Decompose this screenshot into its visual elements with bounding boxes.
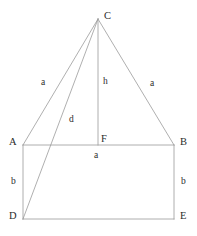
segment-label-height-h: h xyxy=(103,77,108,87)
vertex-label-d: D xyxy=(9,211,17,222)
edge-ca xyxy=(23,19,98,145)
vertex-label-e: E xyxy=(180,211,186,222)
geometry-diagram: CABFDEaahdabb xyxy=(0,0,197,236)
edge-cb xyxy=(98,19,174,145)
vertex-label-a: A xyxy=(9,137,17,148)
segment-label-side-a-right: a xyxy=(150,79,154,89)
edge-cd xyxy=(23,19,98,219)
segment-label-base-a-bottom: a xyxy=(94,151,98,161)
vertex-label-f: F xyxy=(101,134,107,145)
vertex-label-c: C xyxy=(104,11,111,22)
segment-label-side-b-right: b xyxy=(181,177,186,187)
edge-group xyxy=(23,19,174,219)
segment-label-side-b-left: b xyxy=(11,177,16,187)
segment-label-side-a-left: a xyxy=(41,78,45,88)
geometry-canvas xyxy=(0,0,197,236)
segment-label-diagonal-d: d xyxy=(69,115,74,125)
vertex-label-b: B xyxy=(180,137,187,148)
